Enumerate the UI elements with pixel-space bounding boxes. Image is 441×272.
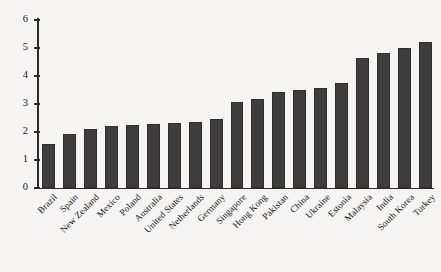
y-axis-tick-label: 3 [4,98,28,109]
x-axis-category-labels: BrazilSpainNew ZealandMexicoPolandAustra… [38,190,436,272]
y-axis-tick-label: 6 [4,14,28,25]
bar [168,123,181,188]
bar [84,129,97,188]
y-axis-tick-label: 4 [4,70,28,81]
y-axis-tick-label: 1 [4,154,28,165]
bar-series [38,20,436,188]
bar [293,90,306,188]
x-axis-label: Brazil [36,192,59,215]
bar [42,144,55,188]
bar [377,53,390,188]
bar [419,42,432,188]
bar [398,48,411,188]
bar [189,122,202,188]
x-axis-label: Mexico [95,192,122,219]
bar [335,83,348,188]
y-axis-tick-label: 5 [4,42,28,53]
bar [210,119,223,188]
bar [272,92,285,188]
bar [63,134,76,188]
bar [126,125,139,188]
bar [231,102,244,188]
bar [105,126,118,188]
bar [314,88,327,188]
y-axis-tick-label: 0 [4,182,28,193]
y-axis-tick-label: 2 [4,126,28,137]
x-axis-label: Turkey [411,192,437,218]
bar [251,99,264,188]
bar [147,124,160,188]
bar-chart: 0123456 BrazilSpainNew ZealandMexicoPola… [0,0,441,272]
bar [356,58,369,188]
